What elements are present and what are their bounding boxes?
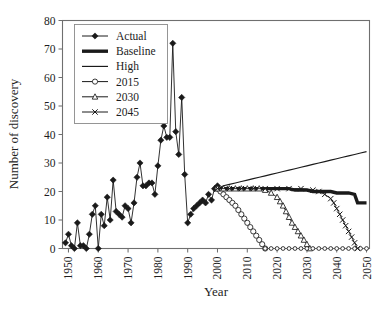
x-tick-label: 1970	[122, 256, 134, 279]
y-axis-title: Number of discovery	[6, 78, 21, 189]
legend-label: High	[116, 60, 139, 73]
x-tick-label: 1960	[92, 256, 104, 279]
data-point-marker	[359, 247, 363, 251]
data-point-marker	[305, 247, 309, 251]
data-point-marker	[287, 247, 291, 251]
x-tick-label: 1980	[152, 256, 164, 279]
data-point-marker	[269, 247, 273, 251]
x-tick-label: 2040	[331, 256, 343, 279]
legend-label: Baseline	[116, 45, 156, 57]
y-tick-label: 70	[44, 43, 56, 55]
x-axis-title: Year	[204, 284, 229, 299]
y-tick-label: 10	[44, 214, 56, 226]
legend-label: 2045	[116, 106, 139, 118]
data-point-marker	[263, 247, 267, 251]
chart-canvas: 01020304050607080 1950196019701980199020…	[0, 0, 386, 311]
data-point-marker	[335, 247, 339, 251]
y-tick-label: 80	[44, 15, 56, 27]
data-point-marker	[323, 247, 327, 251]
y-tick-label: 60	[44, 72, 56, 84]
x-tick-label: 2000	[211, 256, 223, 279]
legend-label: 2015	[116, 76, 139, 88]
data-point-marker	[347, 247, 351, 251]
x-tick-label: 2020	[271, 256, 283, 279]
chart-legend: ActualBaselineHigh201520302045	[75, 25, 168, 124]
data-point-marker	[275, 247, 279, 251]
discovery-forecast-chart: 01020304050607080 1950196019701980199020…	[0, 0, 386, 311]
data-point-marker	[92, 79, 97, 84]
y-tick-label: 50	[44, 100, 56, 112]
x-tick-label: 2010	[241, 256, 253, 279]
x-tick-label: 1990	[182, 256, 194, 279]
y-tick-label: 30	[44, 157, 56, 169]
data-point-marker	[317, 247, 321, 251]
legend-label: Actual	[116, 30, 147, 42]
data-point-marker	[293, 247, 297, 251]
data-point-marker	[299, 247, 303, 251]
data-point-marker	[365, 247, 369, 251]
y-tick-label: 20	[44, 186, 56, 198]
x-tick-label: 2030	[301, 256, 313, 279]
x-tick-label: 1950	[62, 256, 74, 279]
data-point-marker	[281, 247, 285, 251]
y-tick-label: 0	[50, 243, 56, 255]
y-tick-label: 40	[44, 129, 56, 141]
data-point-marker	[353, 247, 357, 251]
data-point-marker	[329, 247, 333, 251]
data-point-marker	[311, 247, 315, 251]
legend-label: 2030	[116, 91, 139, 103]
x-tick-label: 2050	[361, 256, 373, 279]
data-point-marker	[341, 247, 345, 251]
